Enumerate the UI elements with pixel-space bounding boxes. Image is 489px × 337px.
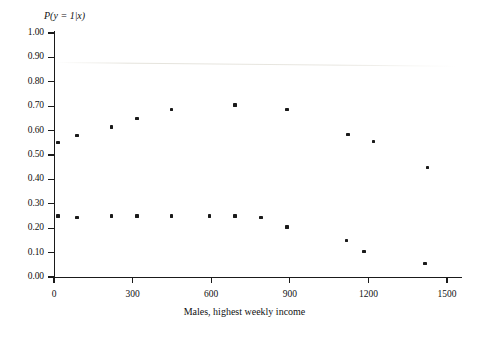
data-point xyxy=(170,108,173,111)
y-axis-tick-label: 0.10 xyxy=(0,248,44,258)
y-axis-tick xyxy=(48,81,54,82)
data-point xyxy=(372,140,375,143)
data-point xyxy=(75,134,78,137)
data-point xyxy=(56,141,59,144)
data-point xyxy=(56,214,59,217)
data-point xyxy=(233,214,236,217)
y-axis-tick xyxy=(48,106,54,107)
data-point xyxy=(135,117,138,120)
x-axis-tick-label: 900 xyxy=(270,290,310,300)
data-point xyxy=(423,262,426,265)
data-point xyxy=(259,216,262,219)
x-axis-label-text: Males, highest weekly income xyxy=(184,306,306,317)
data-point xyxy=(170,214,173,217)
y-axis-tick-label: 0.00 xyxy=(0,272,44,282)
x-axis-tick xyxy=(53,277,54,283)
x-axis-tick-label: 1200 xyxy=(348,290,388,300)
data-point xyxy=(426,166,429,169)
y-axis-tick-label: 0.40 xyxy=(0,174,44,184)
y-axis-tick xyxy=(48,179,54,180)
y-axis-tick-label: 1.00 xyxy=(0,28,44,38)
data-point xyxy=(362,250,365,253)
plot-area: P(y = 1|x) Males, highest weekly income … xyxy=(0,0,489,337)
x-axis-tick xyxy=(132,277,133,283)
y-axis-tick xyxy=(48,228,54,229)
data-point xyxy=(285,225,288,228)
data-point xyxy=(75,216,78,219)
y-axis-label: P(y = 1|x) xyxy=(44,10,85,21)
y-axis-tick xyxy=(48,154,54,155)
data-point xyxy=(285,108,288,111)
y-axis-tick-label: 0.30 xyxy=(0,199,44,209)
x-axis-tick-label: 600 xyxy=(191,290,231,300)
data-point xyxy=(346,133,349,136)
x-axis-tick-label: 0 xyxy=(34,290,74,300)
x-axis-line xyxy=(53,277,462,278)
x-axis-tick-label: 300 xyxy=(113,290,153,300)
x-axis-tick-label: 1500 xyxy=(427,290,467,300)
y-axis-tick xyxy=(48,130,54,131)
y-axis-label-text: P(y = 1|x) xyxy=(44,10,85,21)
y-axis-tick xyxy=(48,32,54,33)
data-point xyxy=(135,214,138,217)
y-axis-tick xyxy=(48,252,54,253)
scatter-plot-figure: P(y = 1|x) Males, highest weekly income … xyxy=(0,0,489,337)
data-point xyxy=(208,214,211,217)
y-axis-tick-label: 0.60 xyxy=(0,126,44,136)
y-axis-tick-label: 0.50 xyxy=(0,150,44,160)
y-axis-tick-label: 0.20 xyxy=(0,223,44,233)
y-axis-tick-label: 0.80 xyxy=(0,77,44,87)
x-axis-tick xyxy=(211,277,212,283)
y-axis-tick xyxy=(48,57,54,58)
y-axis-tick-label: 0.70 xyxy=(0,101,44,111)
data-point xyxy=(110,125,113,128)
x-axis-tick xyxy=(368,277,369,283)
y-axis-tick xyxy=(48,203,54,204)
scan-artifact xyxy=(56,62,456,67)
data-point xyxy=(345,239,348,242)
data-point xyxy=(110,214,113,217)
y-axis-line xyxy=(54,31,55,279)
data-point xyxy=(233,103,236,106)
x-axis-tick xyxy=(446,277,447,283)
x-axis-tick xyxy=(289,277,290,283)
y-axis-tick-label: 0.90 xyxy=(0,52,44,62)
x-axis-label: Males, highest weekly income xyxy=(0,306,489,317)
